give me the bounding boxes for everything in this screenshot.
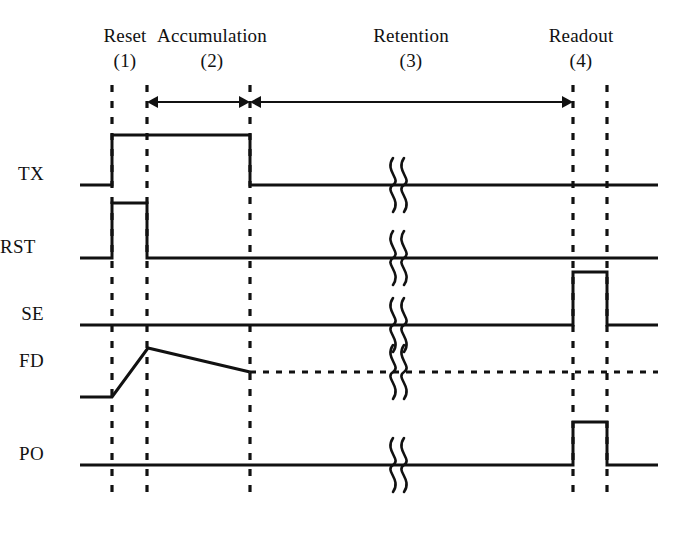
waveform-po bbox=[80, 422, 658, 465]
phase-name-accumulation: Accumulation bbox=[122, 24, 302, 47]
signal-label-fd: FD bbox=[0, 350, 44, 372]
phase-boundary-lines bbox=[112, 85, 607, 497]
phase-number-accumulation: (2) bbox=[122, 49, 302, 72]
phase-name-readout: Readout bbox=[491, 24, 671, 47]
timing-diagram: Reset(1)Accumulation(2)Retention(3)Reado… bbox=[0, 0, 691, 535]
phase-span-arrows bbox=[147, 96, 573, 108]
retention-span-arrow bbox=[250, 96, 573, 108]
waveform-tx bbox=[80, 135, 658, 185]
timing-diagram-canvas bbox=[0, 0, 691, 535]
signal-waveforms bbox=[80, 135, 658, 465]
signal-label-se: SE bbox=[0, 303, 44, 325]
phase-number-readout: (4) bbox=[491, 49, 671, 72]
phase-number-retention: (3) bbox=[321, 49, 501, 72]
phase-name-retention: Retention bbox=[321, 24, 501, 47]
phase-label-readout: Readout(4) bbox=[491, 24, 671, 72]
signal-label-tx: TX bbox=[0, 163, 44, 185]
waveform-se bbox=[80, 272, 658, 325]
phase-label-accumulation: Accumulation(2) bbox=[122, 24, 302, 72]
signal-label-po: PO bbox=[0, 443, 44, 465]
accumulation-span-arrow bbox=[147, 96, 250, 108]
signal-label-rst: RST bbox=[0, 236, 27, 258]
waveform-fd bbox=[80, 348, 658, 397]
phase-label-retention: Retention(3) bbox=[321, 24, 501, 72]
waveform-rst bbox=[80, 203, 658, 258]
